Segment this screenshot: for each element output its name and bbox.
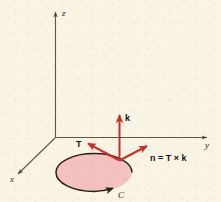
curve-label-c: C xyxy=(118,190,125,200)
vector-calculus-diagram: z y x C k T n = T × k xyxy=(0,0,221,202)
axis-label-z: z xyxy=(61,8,66,18)
figure-canvas: z y x C k T n = T × k xyxy=(0,0,221,202)
vector-n-arrow xyxy=(120,146,148,161)
x-axis-line xyxy=(18,138,56,175)
vector-label-t: T xyxy=(76,139,82,149)
axis-label-y: y xyxy=(204,140,209,150)
axis-group xyxy=(18,12,207,174)
axis-label-x: x xyxy=(9,174,14,184)
vector-label-n: n = T × k xyxy=(150,153,188,163)
vector-label-k: k xyxy=(125,113,131,123)
